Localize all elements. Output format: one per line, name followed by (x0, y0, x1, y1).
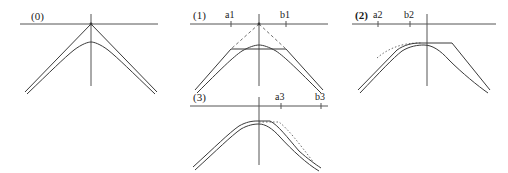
tick-label-a2: a2 (373, 10, 382, 20)
apex-point (258, 23, 261, 26)
smooth-curve (360, 45, 488, 93)
tick-label-b3: b3 (315, 92, 325, 102)
panel-2: (2) a2 b2 (340, 0, 508, 100)
panel-0: (0) (0, 0, 180, 110)
tick-label-b1: b1 (280, 10, 290, 20)
main-profile (358, 43, 490, 90)
panel-0-label: (0) (31, 11, 44, 22)
apex-point (90, 23, 93, 26)
panel-2-label: (2) (355, 10, 368, 21)
figure-container: (0) (1) a1 b1 (0, 0, 508, 173)
tick-label-a1: a1 (225, 10, 234, 20)
panel-1-label: (1) (193, 10, 206, 21)
panel-3-label: (3) (193, 92, 206, 103)
panel-3: (3) a3 b3 (175, 85, 340, 173)
tick-label-a3: a3 (275, 92, 284, 102)
main-profile (193, 121, 321, 168)
dotted-overlay (377, 43, 421, 58)
tick-label-b2: b2 (404, 10, 414, 20)
